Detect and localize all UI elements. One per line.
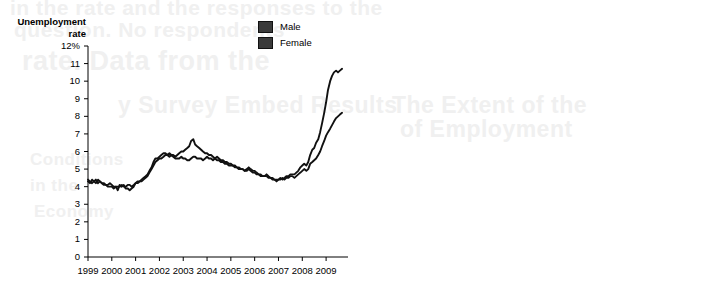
unemployment-chart-right: Unemployment rate Male Female 8%76543210…	[352, 0, 704, 290]
series-line-male	[88, 69, 342, 190]
series-line-female	[88, 113, 342, 187]
y-axis-tick-label: 1	[28, 234, 80, 244]
legend-swatch-male	[258, 21, 273, 33]
legend-item-male: Male	[258, 20, 312, 33]
y-axis-tick-label: 3	[28, 199, 80, 209]
y-axis-tick-label: 8	[28, 111, 80, 121]
y-axis-tick-label: 12%	[28, 41, 80, 51]
y-axis-tick-label: 7	[28, 129, 80, 139]
legend-label-male: Male	[280, 22, 301, 32]
y-axis-title: Unemployment rate	[4, 16, 86, 39]
y-axis-tick-label: 0	[28, 252, 80, 262]
y-axis-tick-label: 4	[28, 182, 80, 192]
y-axis-tick-label: 10	[28, 76, 80, 86]
y-axis-tick-label: 6	[28, 147, 80, 157]
plot-area	[88, 46, 348, 257]
y-axis-tick-label: 2	[28, 217, 80, 227]
unemployment-chart-left: Unemployment rate Male Female 12%1110987…	[0, 0, 352, 290]
y-axis-tick-label: 11	[28, 59, 80, 69]
y-axis-tick-label: 5	[28, 164, 80, 174]
x-axis-tick-label: 2009	[312, 266, 340, 276]
chart-pair: Unemployment rate Male Female 12%1110987…	[0, 0, 704, 290]
y-axis-tick-label: 9	[28, 94, 80, 104]
